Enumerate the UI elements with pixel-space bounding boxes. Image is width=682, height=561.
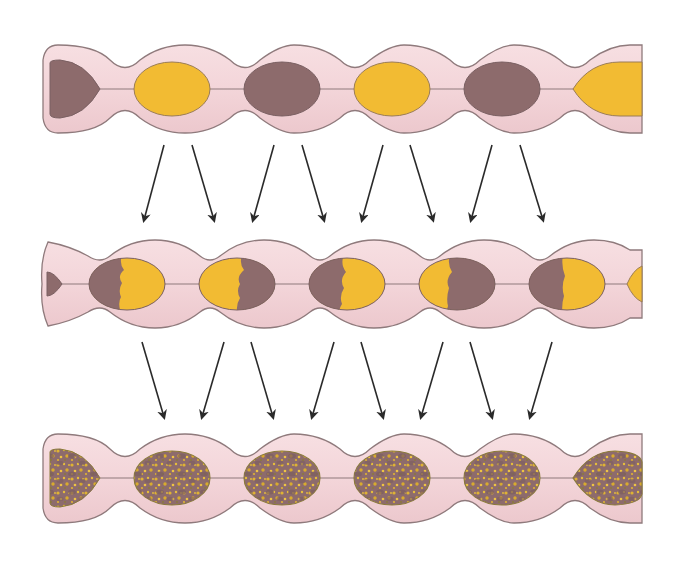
- mixed-segment: [134, 451, 210, 505]
- arrow-icon: [192, 145, 214, 220]
- mixed-segment: [354, 451, 430, 505]
- arrow-icon: [421, 342, 443, 417]
- brown-segment: [464, 62, 540, 116]
- arrow-icon: [312, 342, 334, 417]
- arrow-icon: [144, 145, 164, 220]
- row-stage-3-fully-mixed: [43, 434, 642, 523]
- row-stage-1-separated: [43, 45, 642, 133]
- arrow-icon: [471, 145, 492, 220]
- arrow-icon: [362, 145, 383, 220]
- arrow-icon: [470, 342, 492, 417]
- arrow-icon: [253, 145, 274, 220]
- arrow-icon: [302, 145, 324, 220]
- yellow-segment: [354, 62, 430, 116]
- arrow-icon: [410, 145, 433, 220]
- arrows-stage-2-to-3: [142, 342, 552, 417]
- arrow-icon: [520, 145, 543, 220]
- brown-segment: [244, 62, 320, 116]
- arrow-icon: [251, 342, 273, 417]
- arrow-icon: [142, 342, 164, 417]
- arrow-icon: [361, 342, 383, 417]
- arrows-stage-1-to-2: [144, 145, 543, 220]
- mixed-segment: [244, 451, 320, 505]
- arrow-icon: [202, 342, 224, 417]
- arrow-icon: [530, 342, 552, 417]
- yellow-segment: [134, 62, 210, 116]
- diagram-canvas: [0, 0, 682, 561]
- row-stage-2-half-mixed: [42, 240, 642, 328]
- mixed-segment: [464, 451, 540, 505]
